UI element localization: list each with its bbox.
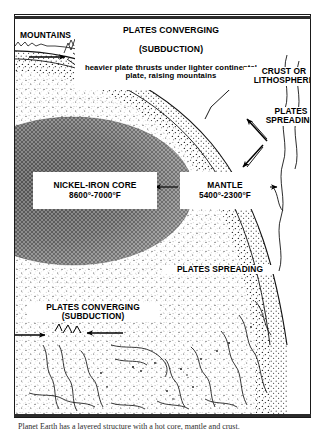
spreading-arrows-right: [243, 119, 267, 167]
header-line3: heavier plate thrusts under lighter cont…: [76, 64, 266, 81]
earth-cross-section-figure: PLATES CONVERGING (SUBDUCTION) heavier p…: [0, 0, 330, 430]
label-nickel-iron-core: NICKEL-IRON CORE 8600°-7000°F: [33, 172, 157, 209]
diagram-frame: PLATES CONVERGING (SUBDUCTION) heavier p…: [14, 14, 311, 418]
header-line1: PLATES CONVERGING: [76, 26, 266, 36]
figure-caption: Planet Earth has a layered structure wit…: [18, 421, 318, 430]
label-mantle: MANTLE 5400°-2300°F: [180, 172, 270, 209]
label-plates-converging-header: PLATES CONVERGING (SUBDUCTION) heavier p…: [75, 17, 267, 90]
frame-top-rule: [14, 16, 311, 19]
frame-bottom-rule: [14, 414, 311, 417]
label-plates-spreading-top: PLATES SPREADING: [258, 107, 311, 126]
spreading-arrow-down: [243, 145, 263, 167]
right-edge-coastline: [273, 55, 299, 271]
core-temperature: 8600°-7000°F: [34, 191, 156, 200]
mantle-name: MANTLE: [207, 180, 243, 190]
core-name: NICKEL-IRON CORE: [53, 180, 136, 190]
label-plates-spreading-middle: PLATES SPREADING: [163, 265, 277, 274]
mantle-temperature: 5400°-2300°F: [181, 191, 269, 200]
header-line2: (SUBDUCTION): [76, 45, 266, 55]
label-plates-converging-bottom: PLATES CONVERGING (SUBDUCTION): [27, 303, 159, 322]
label-crust-or-lithosphere: CRUST OR LITHOSPHERE: [244, 67, 311, 86]
label-mountains: MOUNTAINS: [19, 31, 72, 40]
